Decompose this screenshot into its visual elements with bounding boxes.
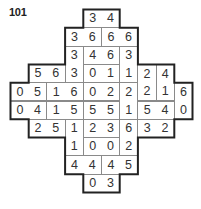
domino-cell-value: 3 bbox=[102, 120, 120, 137]
domino-cell-value: 3 bbox=[138, 120, 156, 137]
domino: 05 bbox=[10, 82, 47, 101]
domino-cell-value: 1 bbox=[120, 64, 137, 82]
domino-cell-value: 6 bbox=[65, 83, 83, 100]
domino-cell-value: 6 bbox=[120, 28, 138, 45]
domino: 41 bbox=[156, 64, 175, 102]
domino-cell-value: 5 bbox=[65, 102, 83, 119]
domino-cell-value: 3 bbox=[102, 175, 120, 192]
domino: 36 bbox=[65, 27, 102, 46]
domino-cell-value: 4 bbox=[157, 65, 174, 83]
domino-cell-value: 2 bbox=[120, 83, 137, 101]
domino: 66 bbox=[101, 27, 138, 46]
domino: 31 bbox=[119, 46, 138, 84]
domino: 01 bbox=[83, 64, 120, 83]
domino-cell-value: 5 bbox=[29, 83, 47, 100]
domino: 11 bbox=[65, 119, 84, 157]
domino-cell-value: 3 bbox=[120, 47, 137, 65]
domino-cell-value: 0 bbox=[11, 102, 29, 119]
domino-cell-value: 1 bbox=[66, 120, 83, 138]
domino-cell-value: 3 bbox=[66, 64, 83, 82]
domino-cell-value: 0 bbox=[11, 83, 29, 100]
domino-cell-value: 0 bbox=[84, 175, 102, 192]
domino: 55 bbox=[83, 101, 120, 120]
domino: 22 bbox=[137, 64, 156, 102]
domino-cell-value: 2 bbox=[120, 138, 137, 156]
domino: 21 bbox=[119, 82, 138, 120]
domino: 16 bbox=[46, 82, 83, 101]
domino-cell-value: 2 bbox=[138, 83, 155, 101]
domino-cell-value: 6 bbox=[175, 83, 192, 101]
domino-cell-value: 6 bbox=[83, 28, 101, 45]
domino: 56 bbox=[28, 64, 65, 83]
domino-cell-value: 6 bbox=[47, 65, 65, 82]
domino-cell-value: 3 bbox=[66, 47, 83, 65]
domino: 03 bbox=[83, 174, 120, 193]
domino-cell-value: 5 bbox=[84, 102, 102, 119]
domino: 23 bbox=[83, 119, 120, 138]
domino: 00 bbox=[83, 137, 120, 156]
domino-cell-value: 5 bbox=[47, 120, 65, 137]
domino: 02 bbox=[83, 82, 120, 101]
domino-cell-value: 6 bbox=[102, 28, 120, 45]
domino-cell-value: 4 bbox=[156, 102, 174, 119]
domino: 33 bbox=[65, 46, 84, 84]
domino-cell-value: 1 bbox=[47, 102, 65, 119]
domino: 45 bbox=[101, 155, 138, 174]
domino: 15 bbox=[46, 101, 83, 120]
domino-cell-value: 2 bbox=[102, 83, 120, 100]
domino: 54 bbox=[137, 101, 174, 120]
domino-cell-value: 0 bbox=[175, 101, 192, 119]
domino-cell-value: 0 bbox=[84, 83, 102, 100]
domino-cell-value: 4 bbox=[29, 102, 47, 119]
domino-cell-value: 4 bbox=[83, 156, 101, 173]
domino: 32 bbox=[137, 119, 174, 138]
domino-cell-value: 4 bbox=[84, 47, 102, 64]
domino-cell-value: 4 bbox=[102, 156, 120, 173]
domino-cell-value: 0 bbox=[102, 138, 120, 155]
domino-cell-value: 1 bbox=[120, 101, 137, 119]
domino-cell-value: 5 bbox=[138, 102, 156, 119]
domino-cell-value: 2 bbox=[156, 120, 174, 137]
domino: 04 bbox=[10, 101, 47, 120]
domino-cell-value: 1 bbox=[102, 65, 120, 82]
domino-cell-value: 4 bbox=[66, 156, 84, 173]
domino-cell-value: 0 bbox=[84, 138, 102, 155]
domino: 34 bbox=[83, 9, 120, 28]
domino-grid: 3436663346315601224105160221600415555425… bbox=[0, 0, 201, 209]
domino-cell-value: 1 bbox=[157, 83, 174, 101]
domino: 62 bbox=[119, 119, 138, 157]
domino: 25 bbox=[28, 119, 65, 138]
domino-cell-value: 2 bbox=[138, 65, 155, 83]
domino-cell-value: 3 bbox=[84, 10, 102, 27]
domino-cell-value: 0 bbox=[84, 65, 102, 82]
domino-cell-value: 6 bbox=[120, 120, 137, 138]
domino-cell-value: 2 bbox=[84, 120, 102, 137]
domino-cell-value: 5 bbox=[29, 65, 47, 82]
domino-cell-value: 2 bbox=[29, 120, 47, 137]
domino: 60 bbox=[174, 82, 193, 120]
domino-cell-value: 5 bbox=[120, 156, 138, 173]
domino-cell-value: 1 bbox=[47, 83, 65, 100]
domino-cell-value: 1 bbox=[66, 138, 83, 156]
domino: 44 bbox=[65, 155, 102, 174]
domino-cell-value: 5 bbox=[102, 102, 120, 119]
domino-cell-value: 4 bbox=[102, 10, 120, 27]
domino-cell-value: 6 bbox=[102, 47, 120, 64]
domino-cell-value: 3 bbox=[66, 28, 84, 45]
domino: 46 bbox=[83, 46, 120, 65]
